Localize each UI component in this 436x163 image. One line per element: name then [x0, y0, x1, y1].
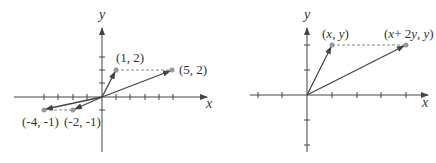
- right-x-axis: x: [250, 92, 429, 110]
- label-x2y-y: (x+ 2y, y): [384, 26, 434, 41]
- diagram-canvas: x y (1, 2) (5, 2) (-4, -1) (-2,: [0, 0, 436, 163]
- right-y-label: y: [302, 7, 311, 22]
- label-x-y: (x, y): [322, 26, 349, 41]
- vector-5-2: [102, 71, 170, 97]
- vector-x2y-y: [307, 46, 404, 95]
- point-5-2: [170, 68, 175, 73]
- point-neg4-neg1: [42, 108, 47, 113]
- vector-neg2-neg1: [75, 97, 102, 109]
- vector-x-y: [307, 47, 331, 95]
- point-x2y-y: [404, 43, 409, 48]
- point-x-y: [330, 43, 335, 48]
- point-neg2-neg1: [71, 108, 76, 113]
- vector-neg4-neg1: [46, 97, 102, 109]
- label-neg2-neg1: (-2, -1): [64, 114, 101, 129]
- left-plot: x y (1, 2) (5, 2) (-4, -1) (-2,: [14, 7, 213, 152]
- label-5-2: (5, 2): [179, 62, 207, 77]
- right-x-label: x: [421, 95, 429, 110]
- point-1-2: [114, 68, 119, 73]
- right-plot: x y (x, y) (x+ 2y, y): [250, 7, 434, 152]
- label-1-2: (1, 2): [116, 50, 144, 65]
- left-y-axis: y: [97, 7, 106, 152]
- left-y-label: y: [97, 7, 106, 22]
- right-y-axis: y: [302, 7, 311, 152]
- left-x-label: x: [205, 96, 213, 111]
- label-neg4-neg1: (-4, -1): [22, 114, 59, 129]
